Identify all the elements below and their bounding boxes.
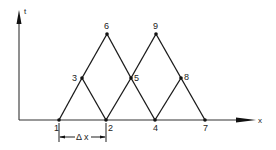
edge-9-8: [156, 34, 181, 78]
edge-2-5: [106, 78, 131, 120]
edge-6-5: [107, 34, 131, 78]
dimension-arrow-left-icon: [59, 136, 65, 139]
node-9: [154, 32, 158, 36]
dimension-arrow-right-icon: [100, 136, 106, 139]
node-label-6: 6: [104, 21, 109, 31]
node-label-8: 8: [184, 72, 189, 82]
edge-1-3: [59, 78, 82, 120]
node-1: [57, 118, 61, 122]
x-axis-arrow-icon: [236, 118, 256, 123]
edge-5-4: [131, 78, 155, 120]
edge-3-2: [82, 78, 106, 120]
node-7: [203, 118, 207, 122]
x-axis-label: x: [258, 116, 262, 125]
node-label-5: 5: [134, 73, 139, 83]
characteristic-grid-diagram: t x 123456789 Δ x: [0, 0, 276, 150]
edge-5-9: [131, 34, 156, 78]
node-label-4: 4: [153, 123, 158, 133]
edge-4-8: [155, 78, 181, 120]
node-label-2: 2: [108, 123, 113, 133]
t-axis-label: t: [24, 7, 27, 16]
t-axis-arrow-icon: [17, 10, 22, 24]
node-5: [129, 76, 133, 80]
node-label-7: 7: [203, 123, 208, 133]
node-4: [153, 118, 157, 122]
edge-8-7: [181, 78, 205, 120]
delta-x-dimension: Δ x: [59, 123, 106, 142]
grid-nodes: 123456789: [54, 21, 208, 133]
node-label-3: 3: [72, 73, 77, 83]
t-axis: t: [17, 7, 28, 120]
node-3: [80, 76, 84, 80]
node-label-1: 1: [54, 123, 59, 133]
node-6: [105, 32, 109, 36]
node-8: [179, 76, 183, 80]
node-2: [104, 118, 108, 122]
delta-x-label: Δ x: [76, 132, 89, 142]
node-label-9: 9: [153, 21, 158, 31]
edge-3-6: [82, 34, 107, 78]
